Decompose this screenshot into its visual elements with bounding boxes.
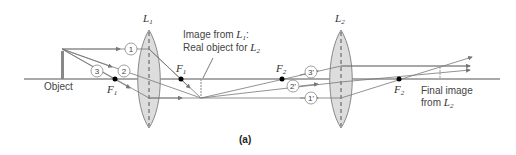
intermediate-image-pointer — [203, 58, 213, 78]
two-lens-ray-diagram: 1 2 3 3' 2' 1' L1 L2 F1 F1 F2 F2 Object … — [0, 0, 516, 155]
focal-point-f1-left — [113, 77, 118, 82]
ray-label-3: 3 — [95, 67, 100, 76]
intermediate-image-label-line1: Image from L1: — [183, 28, 249, 42]
final-image-label-line1: Final image — [421, 85, 473, 96]
ray-label-1: 1 — [129, 45, 134, 54]
intermediate-image-label-line2: Real object for L2 — [183, 41, 260, 55]
f1-left-label: F1 — [106, 83, 117, 97]
final-image-label-line2: from L2 — [421, 96, 454, 110]
ray-label-2-prime: 2' — [290, 82, 296, 91]
lens-1 — [138, 30, 161, 128]
f2-right-label: F2 — [393, 83, 405, 97]
f1-right-label: F1 — [175, 62, 186, 76]
lens-2 — [330, 30, 353, 128]
f2-left-label: F2 — [275, 62, 287, 76]
ray-label-3-prime: 3' — [308, 68, 314, 77]
focal-point-f1-right — [179, 77, 184, 82]
object-label: Object — [44, 81, 73, 92]
object-arrow — [61, 51, 64, 79]
focal-point-f2-left — [280, 77, 285, 82]
lens-2-label: L2 — [334, 12, 345, 26]
lens-1-label: L1 — [142, 12, 153, 26]
ray-label-2: 2 — [122, 67, 127, 76]
focal-point-f2-right — [397, 77, 402, 82]
figure-caption: (a) — [239, 134, 251, 145]
ray-label-1-prime: 1' — [308, 94, 314, 103]
